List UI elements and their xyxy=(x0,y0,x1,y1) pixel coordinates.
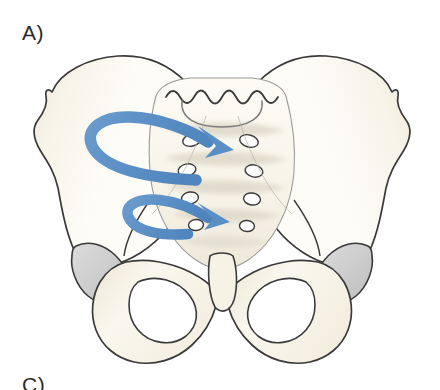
figure-root: A) C) xyxy=(0,0,440,390)
pubic-symphysis xyxy=(209,253,237,311)
pelvis-bone-group xyxy=(34,56,410,363)
panel-label-a: A) xyxy=(22,22,44,43)
pelvis-illustration xyxy=(0,0,440,390)
panel-label-c: C) xyxy=(22,374,45,390)
